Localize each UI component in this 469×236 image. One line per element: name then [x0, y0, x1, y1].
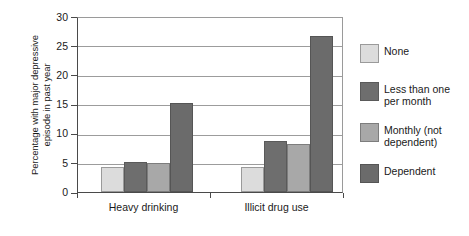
legend-label-none: None — [384, 45, 409, 57]
legend-label-monthly-not-dependent-line1: Monthly (not — [384, 124, 442, 136]
legend-swatch-none-icon — [360, 44, 379, 63]
y-tick-label-0: 0 — [28, 187, 68, 198]
gridline-25 — [78, 46, 342, 47]
bar-illicit-drug-use-dependent — [310, 36, 333, 192]
plot-area — [77, 17, 343, 193]
bar-illicit-drug-use-less-than-one-per-month — [264, 141, 287, 192]
x-tick-mark-middle — [210, 193, 211, 198]
y-tick-label-10: 10 — [28, 128, 68, 139]
legend-swatch-less-than-one-per-month-icon — [360, 82, 379, 101]
gridline-15 — [78, 105, 342, 106]
y-tick-label-25: 25 — [28, 41, 68, 52]
bar-heavy-drinking-none — [101, 167, 124, 192]
y-tick-label-20: 20 — [28, 70, 68, 81]
legend-swatch-monthly-not-dependent-icon — [360, 123, 379, 142]
y-tick-label-15: 15 — [28, 99, 68, 110]
x-axis-label-heavy-drinking: Heavy drinking — [77, 201, 210, 213]
bar-heavy-drinking-less-than-one-per-month — [124, 162, 147, 192]
y-tick-label-5: 5 — [28, 158, 68, 169]
legend-label-dependent: Dependent — [384, 165, 435, 177]
bar-heavy-drinking-dependent — [170, 103, 193, 192]
legend-label-less-than-one-per-month-line1: Less than one — [384, 83, 450, 95]
legend-swatch-dependent-icon — [360, 164, 379, 183]
x-axis-label-illicit-drug-use: Illicit drug use — [210, 201, 343, 213]
legend-item-monthly-not-dependent: Monthly (not dependent) — [360, 123, 442, 148]
legend-label-monthly-not-dependent-line2: dependent) — [384, 136, 437, 148]
bar-illicit-drug-use-none — [241, 167, 264, 192]
gridline-20 — [78, 76, 342, 77]
legend-label-less-than-one-per-month-line2: per month — [384, 95, 431, 107]
gridline-10 — [78, 135, 342, 136]
bar-chart-figure: Percentage with major depressive episode… — [0, 0, 469, 236]
legend-item-less-than-one-per-month: Less than one per month — [360, 82, 450, 107]
y-tick-label-30: 30 — [28, 12, 68, 23]
bar-illicit-drug-use-monthly-not-dependent — [287, 144, 310, 192]
x-tick-mark-left — [77, 193, 78, 198]
x-tick-mark-right — [343, 193, 344, 198]
legend-item-dependent: Dependent — [360, 164, 435, 183]
legend-item-none: None — [360, 44, 409, 63]
bar-heavy-drinking-monthly-not-dependent — [147, 163, 170, 192]
